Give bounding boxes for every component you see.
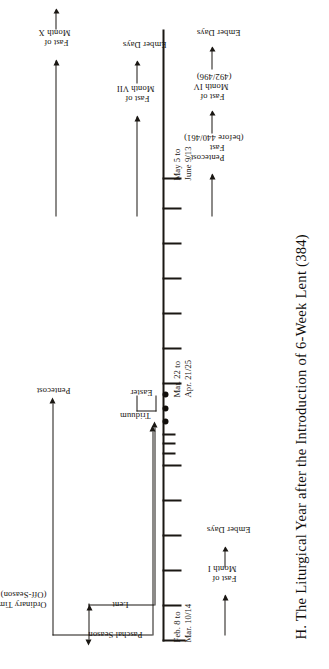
chain-month-i-fast-line2: Month I [207, 562, 236, 573]
axis-tick [162, 464, 181, 466]
bracket-easter-spine [136, 410, 156, 411]
axis-tick [162, 534, 181, 536]
bracket-lent-arrow-left [85, 639, 91, 645]
chain-month-iv-arrow-3 [211, 47, 212, 69]
axis-tick [162, 277, 181, 279]
axis-tick [162, 452, 175, 454]
season-label-ordinary-time-line2: (Off-Season) [0, 588, 46, 599]
chain-month-x-fast-line2: Month X [38, 26, 70, 37]
bracket-lent-arm-right [154, 427, 155, 605]
axis-label-easter: Mar. 22 toApr. 21/25 [171, 333, 194, 397]
chain-month-i-arrow-2 [224, 547, 225, 567]
axis-tick [162, 433, 175, 435]
chain-month-iv-ember-days: Ember Days [196, 26, 240, 37]
axis-dot-triduum-mid [162, 405, 168, 411]
bracket-easter-arm-bottom [155, 395, 156, 411]
season-label-easter: Easter [130, 386, 152, 397]
bracket-paschal-arm-upper [52, 403, 53, 635]
axis-tick [162, 242, 181, 244]
season-label-paschal: Paschal Season [88, 628, 142, 639]
chain-month-iv-pentfast-line3: (before 440/461) [183, 131, 243, 142]
axis-tick [162, 312, 181, 314]
bracket-paschal-arm-lower [152, 431, 153, 635]
axis-label-pentecost-date: May 5 toJune 9/13 [171, 118, 194, 180]
axis-tick [162, 499, 181, 501]
axis-tick [162, 207, 181, 209]
axis-tick [162, 569, 181, 571]
chain-month-x-arrow-1 [55, 60, 56, 216]
season-label-pentecost: Pentecost [36, 384, 70, 395]
chain-month-vii-fast-line2: Month VII [116, 82, 154, 93]
chain-month-vii-arrow-2 [136, 61, 137, 83]
axis-label-lent-start: Feb. 8 toMar. 10/14 [171, 582, 194, 642]
timeline-axis [162, 29, 164, 641]
season-label-lent: Lent [112, 598, 128, 609]
diagram-canvas: Feb. 8 toMar. 10/14 Mar. 22 toApr. 21/25… [0, 0, 329, 669]
chain-month-i-arrow-1 [224, 595, 225, 635]
bracket-paschal-arrow-lower [149, 425, 155, 431]
chain-month-vii-ember-days: Ember Days [122, 38, 166, 49]
axis-dot-easter [162, 391, 168, 397]
axis-dot-triduum-start [162, 418, 168, 424]
chain-month-iv-fast-line3: (492/496) [196, 70, 231, 81]
bracket-paschal-arrow-upper [49, 397, 55, 403]
chain-month-vii-arrow-1 [136, 116, 137, 216]
chain-month-x-arrow-2 [55, 9, 56, 29]
chain-month-i-ember-days: Ember Days [206, 523, 250, 534]
figure-caption: H. The Liturgical Year after the Introdu… [292, 234, 309, 639]
chain-month-iv-arrow-1 [211, 174, 212, 216]
chain-month-iv-arrow-2 [211, 111, 212, 133]
axis-tick [162, 442, 175, 444]
